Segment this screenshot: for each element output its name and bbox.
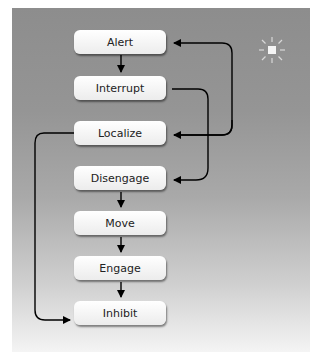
light-burst-icon — [258, 36, 286, 64]
arrow-into-localize — [174, 120, 232, 135]
node-label: Disengage — [91, 172, 149, 185]
node-label: Interrupt — [96, 82, 144, 95]
node-label: Alert — [107, 36, 133, 49]
node-engage: Engage — [74, 256, 166, 280]
node-move: Move — [74, 211, 166, 235]
node-inhibit: Inhibit — [74, 301, 166, 325]
node-interrupt: Interrupt — [74, 76, 166, 100]
node-label: Inhibit — [103, 307, 138, 320]
node-alert: Alert — [74, 30, 166, 54]
node-label: Move — [105, 217, 135, 230]
node-localize: Localize — [74, 121, 166, 145]
arrow-localize-inhibit — [35, 133, 74, 320]
node-label: Engage — [99, 262, 140, 275]
node-disengage: Disengage — [74, 166, 166, 190]
node-label: Localize — [98, 127, 142, 140]
